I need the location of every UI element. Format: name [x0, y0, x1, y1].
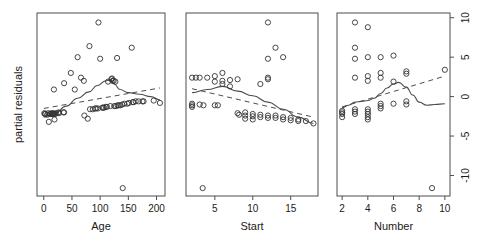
- y-tick-label: 10: [461, 12, 472, 24]
- x-tick-label: 5: [212, 203, 218, 214]
- x-tick-label: 100: [92, 203, 109, 214]
- x-tick-label: 200: [148, 203, 165, 214]
- y-tick-label: -10: [461, 168, 472, 183]
- figure-canvas: 050100150200Age51015Start246810Number105…: [0, 0, 491, 251]
- x-tick-label: 15: [285, 203, 297, 214]
- y-axis-label: partial residuals: [12, 65, 24, 143]
- x-tick-label: 0: [41, 203, 47, 214]
- x-tick-label: 2: [339, 203, 345, 214]
- y-tick-label: 0: [461, 93, 472, 99]
- y-tick-label: -5: [461, 131, 472, 140]
- x-tick-label: 4: [365, 203, 371, 214]
- x-axis-label: Age: [91, 220, 111, 232]
- x-tick-label: 150: [120, 203, 137, 214]
- x-tick-label: 10: [439, 203, 451, 214]
- partial-residual-plot-figure: 050100150200Age51015Start246810Number105…: [0, 0, 491, 251]
- x-axis-label: Number: [374, 220, 413, 232]
- x-axis-label: Start: [240, 220, 263, 232]
- x-tick-label: 8: [416, 203, 422, 214]
- x-tick-label: 6: [391, 203, 397, 214]
- y-tick-label: 5: [461, 54, 472, 60]
- x-tick-label: 50: [66, 203, 78, 214]
- x-tick-label: 10: [247, 203, 259, 214]
